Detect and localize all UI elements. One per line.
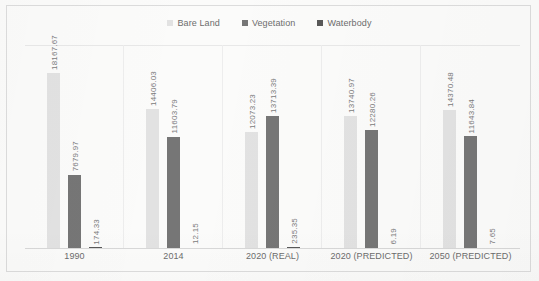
bar-vegetation[interactable] bbox=[365, 130, 378, 249]
bar-cluster: 14370.4811643.847.65 bbox=[421, 45, 520, 249]
legend-item-bare-land[interactable]: Bare Land bbox=[167, 18, 219, 28]
bar-value-label: 14406.03 bbox=[146, 71, 159, 106]
bar-value-label: 13740.97 bbox=[344, 78, 357, 113]
bar-group: 14370.4811643.847.65 bbox=[421, 45, 520, 249]
bar-value-label: 7679.97 bbox=[68, 141, 81, 171]
x-axis-line bbox=[25, 248, 520, 249]
bar-cluster: 14406.0311603.7912.15 bbox=[124, 45, 223, 249]
bar-vegetation[interactable] bbox=[266, 116, 279, 249]
bar-slot: 13713.39 bbox=[266, 45, 279, 249]
bar-bare-land[interactable] bbox=[344, 116, 357, 249]
bar-slot: 12.15 bbox=[188, 45, 201, 249]
bar-slot: 14406.03 bbox=[146, 45, 159, 249]
bar-value-label: 14370.48 bbox=[443, 72, 456, 107]
bar-vegetation[interactable] bbox=[68, 175, 81, 249]
bar-value-label: 7.65 bbox=[485, 228, 498, 244]
bar-group: 18167.677679.97174.33 bbox=[25, 45, 124, 249]
bar-slot: 6.19 bbox=[386, 45, 399, 249]
bar-value-label: 6.19 bbox=[386, 228, 399, 244]
bar-cluster: 18167.677679.97174.33 bbox=[25, 45, 124, 249]
x-axis-labels: 199020142020 (REAL)2020 (PREDICTED)2050 … bbox=[25, 251, 520, 261]
chart-legend: Bare LandVegetationWaterbody bbox=[0, 18, 539, 28]
bar-slot: 14370.48 bbox=[443, 45, 456, 249]
bar-group: 12073.2313713.39235.35 bbox=[223, 45, 322, 249]
bar-cluster: 12073.2313713.39235.35 bbox=[223, 45, 322, 249]
bar-value-label: 11603.79 bbox=[167, 99, 180, 133]
legend-item-label: Bare Land bbox=[177, 18, 219, 28]
legend-swatch-icon bbox=[167, 20, 173, 26]
bar-slot: 13740.97 bbox=[344, 45, 357, 249]
bar-slot: 235.35 bbox=[287, 45, 300, 249]
bar-slot: 11643.84 bbox=[464, 45, 477, 249]
bar-slot: 18167.67 bbox=[47, 45, 60, 249]
bar-bare-land[interactable] bbox=[443, 110, 456, 249]
legend-swatch-icon bbox=[317, 20, 323, 26]
bar-value-label: 235.35 bbox=[287, 218, 300, 244]
bar-groups: 18167.677679.97174.3314406.0311603.7912.… bbox=[25, 45, 520, 249]
bar-group: 13740.9712280.266.19 bbox=[322, 45, 421, 249]
bar-group: 14406.0311603.7912.15 bbox=[124, 45, 223, 249]
legend-item-waterbody[interactable]: Waterbody bbox=[317, 18, 371, 28]
bar-vegetation[interactable] bbox=[167, 137, 180, 249]
bar-slot: 7.65 bbox=[485, 45, 498, 249]
legend-swatch-icon bbox=[242, 20, 248, 26]
bar-value-label: 18167.67 bbox=[47, 35, 60, 70]
bar-bare-land[interactable] bbox=[146, 109, 159, 249]
bar-value-label: 12073.23 bbox=[245, 94, 258, 129]
x-axis-label: 2020 (REAL) bbox=[223, 251, 322, 261]
bar-slot: 12280.26 bbox=[365, 45, 378, 249]
legend-item-label: Waterbody bbox=[327, 18, 371, 28]
plot-area: 18167.677679.97174.3314406.0311603.7912.… bbox=[25, 45, 520, 249]
bar-value-label: 13713.39 bbox=[266, 78, 279, 113]
x-axis-label: 1990 bbox=[25, 251, 124, 261]
legend-item-label: Vegetation bbox=[252, 18, 296, 28]
bar-value-label: 11643.84 bbox=[464, 99, 477, 133]
x-axis-label: 2020 (PREDICTED) bbox=[322, 251, 421, 261]
bar-value-label: 12.15 bbox=[188, 223, 201, 244]
x-axis-label: 2014 bbox=[124, 251, 223, 261]
x-axis-label: 2050 (PREDICTED) bbox=[421, 251, 520, 261]
legend-item-vegetation[interactable]: Vegetation bbox=[242, 18, 296, 28]
chart-screenshot: Bare LandVegetationWaterbody 18167.67767… bbox=[0, 0, 539, 281]
bar-slot: 7679.97 bbox=[68, 45, 81, 249]
bar-bare-land[interactable] bbox=[47, 73, 60, 249]
bar-vegetation[interactable] bbox=[464, 136, 477, 249]
bar-bare-land[interactable] bbox=[245, 132, 258, 249]
bar-value-label: 174.33 bbox=[89, 219, 102, 245]
bar-slot: 12073.23 bbox=[245, 45, 258, 249]
bar-cluster: 13740.9712280.266.19 bbox=[322, 45, 421, 249]
bar-value-label: 12280.26 bbox=[365, 92, 378, 127]
bar-slot: 174.33 bbox=[89, 45, 102, 249]
bar-slot: 11603.79 bbox=[167, 45, 180, 249]
